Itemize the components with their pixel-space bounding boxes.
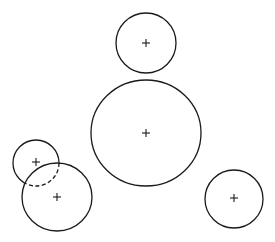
circle-diagram (0, 0, 275, 242)
circle-right (205, 170, 263, 228)
center-cross-icon (230, 194, 238, 202)
circle-top (116, 13, 176, 73)
circle-center-large (91, 80, 201, 186)
center-cross-icon (142, 39, 150, 47)
center-cross-icon (142, 129, 150, 137)
center-cross-icon (32, 158, 40, 166)
center-cross-icon (53, 193, 61, 201)
